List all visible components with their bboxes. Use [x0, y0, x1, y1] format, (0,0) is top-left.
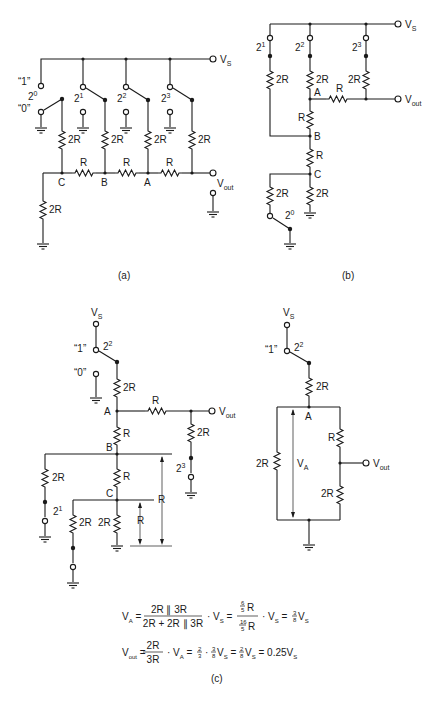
svg-text:22: 22 — [294, 341, 304, 353]
svg-text:R: R — [152, 395, 159, 406]
svg-text:“1”: “1” — [74, 343, 86, 354]
svg-text:6: 6 — [241, 600, 245, 606]
svg-text:8: 8 — [293, 617, 297, 623]
svg-text:R: R — [137, 515, 144, 526]
svg-text:VS: VS — [91, 307, 103, 320]
svg-text:23: 23 — [176, 462, 186, 474]
svg-text:2R: 2R — [123, 382, 136, 393]
svg-text:2R: 2R — [49, 204, 62, 215]
svg-text:R: R — [158, 494, 165, 505]
svg-text:“0”: “0” — [74, 367, 86, 378]
svg-text:B: B — [314, 131, 321, 142]
svg-text:VS: VS — [283, 307, 295, 320]
svg-text:22: 22 — [103, 340, 113, 352]
svg-text:R: R — [336, 83, 343, 94]
svg-text:R: R — [298, 112, 305, 123]
svg-text:R: R — [248, 621, 255, 632]
svg-text:21: 21 — [256, 41, 266, 53]
svg-text:VS = 0.25VS: VS = 0.25VS — [245, 647, 297, 660]
svg-text:VA =: VA = — [122, 611, 141, 624]
svg-text:R: R — [166, 157, 173, 168]
svg-text:2R: 2R — [321, 488, 334, 499]
svg-text:R: R — [123, 157, 130, 168]
svg-text:VS =: VS = — [217, 647, 236, 660]
svg-text:2R + 2R ∥ 3R: 2R + 2R ∥ 3R — [143, 618, 203, 630]
bit-2-3-label: 23 — [161, 92, 171, 104]
svg-text:R: R — [328, 432, 335, 443]
state-one-label: “1” — [18, 76, 30, 87]
svg-text:5: 5 — [241, 626, 245, 632]
svg-text:A: A — [104, 406, 111, 417]
svg-text:8: 8 — [212, 653, 216, 659]
svg-text:R: R — [247, 602, 254, 613]
svg-text:2R: 2R — [348, 74, 361, 85]
svg-text:Vout: Vout — [405, 94, 421, 107]
svg-text:2R: 2R — [79, 517, 92, 528]
svg-text:2R: 2R — [154, 134, 167, 145]
svg-text:22: 22 — [295, 41, 305, 53]
svg-text:A: A — [305, 411, 312, 422]
svg-text:3: 3 — [293, 610, 297, 616]
svg-text:3R: 3R — [147, 654, 160, 665]
svg-text:20: 20 — [285, 209, 295, 221]
caption-c: (c) — [211, 673, 223, 684]
svg-text:B: B — [106, 442, 113, 453]
bit-2-0-label: 20 — [28, 90, 38, 102]
svg-text:2R ∥ 3R: 2R ∥ 3R — [151, 604, 187, 616]
svg-text:C: C — [314, 169, 321, 180]
svg-text:2R: 2R — [197, 427, 210, 438]
svg-text:23: 23 — [352, 41, 362, 53]
svg-text:Vout =: Vout = — [122, 647, 146, 660]
bit-2-1-label: 21 — [74, 92, 84, 104]
svg-text:2R: 2R — [147, 640, 160, 651]
svg-text:Vout: Vout — [219, 406, 235, 419]
svg-text:21: 21 — [53, 505, 63, 517]
svg-text:Vout: Vout — [373, 458, 389, 471]
svg-text:2R: 2R — [98, 517, 111, 528]
caption-a: (a) — [118, 270, 130, 281]
dac-ladder-figure: VS “1” 20 “0” 2R 21 2R — [0, 0, 444, 701]
panel-c-left: VS “1” 22 “0” 2R A R Vout 2R 23 — [39, 307, 235, 588]
svg-text:2R: 2R — [316, 188, 329, 199]
svg-text:2R: 2R — [316, 381, 329, 392]
vs-label-b: VS — [405, 19, 417, 32]
svg-text:· VS =: · VS = — [262, 611, 288, 624]
svg-text:2: 2 — [198, 646, 202, 652]
svg-text:R: R — [316, 150, 323, 161]
svg-text:2R: 2R — [276, 188, 289, 199]
panel-b: VS 21 2R 22 2R A 23 2R — [256, 19, 421, 281]
panel-c-right: VS “1” 22 2R A 2R R Vout 2R — [256, 307, 389, 550]
svg-text:8: 8 — [240, 653, 244, 659]
node-c-label: C — [58, 177, 65, 188]
svg-text:2R: 2R — [52, 472, 65, 483]
svg-text:5: 5 — [241, 607, 245, 613]
svg-text:R: R — [123, 471, 130, 482]
svg-text:2R: 2R — [68, 134, 81, 145]
svg-text:3: 3 — [198, 653, 202, 659]
svg-text:VS: VS — [298, 611, 309, 624]
svg-text:2R: 2R — [316, 74, 329, 85]
svg-text:2R: 2R — [256, 458, 269, 469]
svg-text:2R: 2R — [198, 134, 211, 145]
state-zero-label: “0” — [18, 103, 30, 114]
equations: VA = 2R ∥ 3R 2R + 2R ∥ 3R · VS = 6 5 R 1… — [122, 600, 309, 684]
svg-text:C: C — [106, 488, 113, 499]
vs-terminal — [210, 56, 216, 62]
svg-text:·: · — [205, 647, 208, 658]
vout-label: Vout — [217, 178, 233, 191]
svg-text:2R: 2R — [276, 74, 289, 85]
svg-text:A: A — [314, 87, 321, 98]
vout-terminal — [210, 170, 216, 176]
panel-a: VS “1” 20 “0” 2R 21 2R — [18, 54, 233, 281]
svg-text:3: 3 — [212, 646, 216, 652]
svg-text:R: R — [80, 157, 87, 168]
vs-label: VS — [220, 54, 232, 67]
svg-text:· VA =: · VA = — [167, 647, 193, 660]
bit-2-2-label: 22 — [117, 92, 127, 104]
svg-text:· VS =: · VS = — [207, 611, 233, 624]
svg-text:2: 2 — [240, 646, 244, 652]
caption-b: (b) — [342, 270, 354, 281]
svg-text:R: R — [123, 428, 130, 439]
node-b-label: B — [101, 177, 108, 188]
node-a-label: A — [144, 177, 151, 188]
